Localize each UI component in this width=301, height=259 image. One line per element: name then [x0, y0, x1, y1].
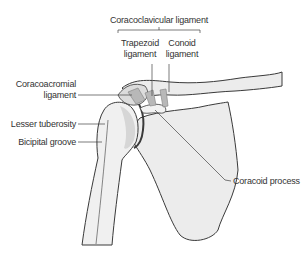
- coracoacromial-ligament-label: Coracoacromial ligament: [8, 79, 76, 101]
- coracoacromial-line2: ligament: [8, 90, 76, 101]
- conoid-ligament-label: Conoid ligament: [163, 38, 201, 60]
- coracoid-process-label: Coracoid process: [233, 176, 300, 187]
- scapula: [134, 102, 238, 240]
- coracoacromial-line1: Coracoacromial: [8, 79, 76, 90]
- coracoclavicular-bracket: [118, 27, 200, 33]
- bicipital-groove-label: Bicipital groove: [4, 137, 76, 148]
- lesser-tuberosity-label: Lesser tuberosity: [4, 119, 76, 130]
- trapezoid-ligament-label: Trapezoid ligament: [118, 38, 162, 60]
- coracoclavicular-ligament-label: Coracoclavicular ligament: [108, 15, 210, 26]
- trapezoid-line2: ligament: [118, 49, 162, 60]
- conoid-line2: ligament: [163, 49, 201, 60]
- trapezoid-line1: Trapezoid: [118, 38, 162, 49]
- conoid-line1: Conoid: [163, 38, 201, 49]
